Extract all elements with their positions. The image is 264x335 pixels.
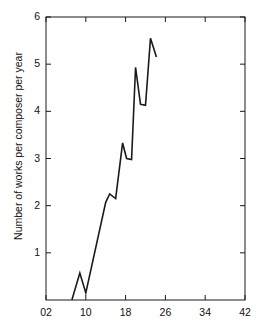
- data-series-line: [72, 38, 157, 300]
- x-tick-label-10: 10: [74, 306, 98, 318]
- chart-figure: Number of works per composer per year 02…: [0, 0, 264, 335]
- y-tick-label-5: 5: [22, 57, 40, 69]
- x-tick-label-02: 02: [34, 306, 58, 318]
- x-tick-label-26: 26: [153, 306, 177, 318]
- y-tick-label-2: 2: [22, 199, 40, 211]
- axis-ticks: [46, 17, 245, 300]
- y-tick-label-6: 6: [22, 10, 40, 22]
- x-tick-label-34: 34: [193, 306, 217, 318]
- y-tick-label-4: 4: [22, 104, 40, 116]
- x-tick-label-18: 18: [114, 306, 138, 318]
- y-tick-label-3: 3: [22, 152, 40, 164]
- y-tick-label-1: 1: [22, 246, 40, 258]
- x-tick-label-42: 42: [233, 306, 257, 318]
- axis-frame: [46, 17, 245, 300]
- plot-canvas: [0, 0, 264, 335]
- cropped-caption-text: [0, 321, 264, 335]
